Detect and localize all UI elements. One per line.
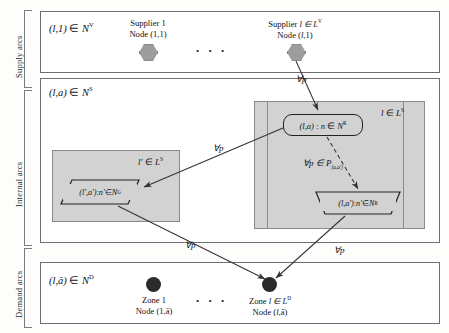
zone-l-index: l ∈ L — [269, 296, 287, 306]
internal-node-trapezoid-label: (l,a') : n' ∈ NR — [320, 195, 396, 211]
path-arc-label-subscript: (a,a') — [332, 164, 343, 170]
internal-cross-arc-label: ∀p — [213, 143, 224, 153]
zone-1-line1: Zone 1 — [142, 295, 166, 305]
zone-1-node-suffix: ,ā) — [164, 306, 173, 316]
supply-arc-label: ∀p — [296, 74, 307, 84]
trap-node-sup: R — [374, 200, 377, 206]
zone-1-line2: Node (1,ā) — [136, 306, 173, 316]
zone-l-index-sup: D — [287, 295, 291, 301]
zone-l-line1: Zone l ∈ LD — [249, 296, 291, 306]
demand-arc-left-label: ∀p — [185, 240, 196, 250]
zone-1-caption: Zone 1 Node (1,ā) — [118, 295, 190, 316]
demand-title-superscript: D — [89, 273, 94, 280]
zone-1-index: 1 — [162, 295, 166, 305]
demand-arc-right-label: ∀p — [334, 245, 345, 255]
trap-node-member: ∈ — [362, 198, 369, 208]
zone-l-caption: Zone l ∈ LD Node (l,ā) — [225, 295, 315, 317]
demand-title-pair: (l,ā) — [49, 275, 69, 286]
zone-1-node-dot[interactable] — [146, 277, 161, 292]
internal-path-arc-label: ∀p ∈ P(a,a') — [303, 158, 343, 170]
zone-l-node-prefix: Node ( — [253, 307, 277, 317]
demand-title-member: ∈ — [69, 275, 82, 286]
zone-l-node-suffix: ,ā) — [279, 307, 288, 317]
zone-1-word: Zone — [142, 295, 162, 305]
zone-l-line2: Node (l,ā) — [253, 307, 288, 317]
network-arc-diagram: Supply arcs Internal arcs Demand arcs (l… — [0, 0, 449, 333]
zone-l-word: Zone — [249, 296, 269, 306]
zone-l-node-dot[interactable] — [262, 277, 277, 292]
demand-band-title: (l,ā) ∈ ND — [49, 273, 94, 286]
zone-1-node-prefix: Node ( — [136, 306, 160, 316]
path-arc-label-prefix: ∀p ∈ P — [303, 158, 332, 168]
demand-ellipsis: . . . — [196, 290, 227, 306]
demand-title-set: N — [82, 275, 89, 286]
trap-node-pair: (l,a') — [338, 199, 354, 208]
